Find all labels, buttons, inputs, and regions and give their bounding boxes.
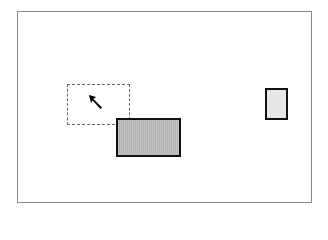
gray-filled-rectangle[interactable] [116, 118, 181, 157]
arrow-pointer-icon [88, 94, 104, 110]
stippled-rectangle[interactable] [265, 88, 288, 120]
